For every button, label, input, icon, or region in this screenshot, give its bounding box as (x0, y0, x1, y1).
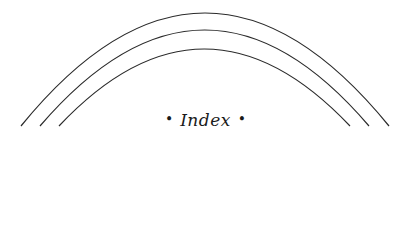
right-dot-ornament: • (238, 111, 246, 127)
index-title: Index (180, 110, 231, 130)
index-heading: •Index• (0, 110, 411, 130)
left-dot-ornament: • (165, 111, 173, 127)
